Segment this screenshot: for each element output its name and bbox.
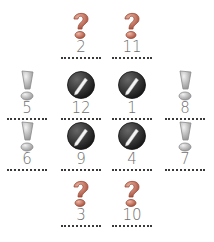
exclamation-icon [170, 121, 200, 153]
card-question-10[interactable]: 10 [109, 177, 155, 231]
card-number: 6 [4, 152, 50, 167]
answer-line[interactable] [112, 169, 152, 171]
card-number: 7 [162, 152, 208, 167]
card-exclamation-7[interactable]: 7 [162, 121, 208, 175]
answer-line[interactable] [165, 118, 205, 120]
pencil-icon [117, 121, 147, 153]
card-question-2[interactable]: 2 [58, 9, 104, 63]
card-number: 4 [109, 152, 155, 167]
card-exclamation-6[interactable]: 6 [4, 121, 50, 175]
card-pencil-12[interactable]: 12 [58, 70, 104, 124]
card-number: 8 [162, 101, 208, 116]
card-exclamation-5[interactable]: 5 [4, 70, 50, 124]
answer-line[interactable] [112, 225, 152, 227]
answer-line[interactable] [7, 169, 47, 171]
card-pencil-4[interactable]: 4 [109, 121, 155, 175]
card-number: 1 [109, 101, 155, 116]
pencil-icon [117, 70, 147, 102]
answer-line[interactable] [61, 225, 101, 227]
card-number: 5 [4, 101, 50, 116]
answer-line[interactable] [61, 169, 101, 171]
answer-line[interactable] [112, 118, 152, 120]
question-icon [117, 177, 147, 209]
card-pencil-1[interactable]: 1 [109, 70, 155, 124]
exclamation-icon [12, 121, 42, 153]
card-exclamation-8[interactable]: 8 [162, 70, 208, 124]
pencil-icon [66, 70, 96, 102]
card-number: 2 [58, 40, 104, 55]
card-number: 10 [109, 208, 155, 223]
card-question-3[interactable]: 3 [58, 177, 104, 231]
card-question-11[interactable]: 11 [109, 9, 155, 63]
answer-line[interactable] [7, 118, 47, 120]
answer-line[interactable] [112, 57, 152, 59]
card-number: 9 [58, 152, 104, 167]
question-icon [66, 177, 96, 209]
answer-line[interactable] [61, 118, 101, 120]
card-pencil-9[interactable]: 9 [58, 121, 104, 175]
pencil-icon [66, 121, 96, 153]
card-number: 12 [58, 101, 104, 116]
card-number: 3 [58, 208, 104, 223]
exclamation-icon [12, 70, 42, 102]
answer-line[interactable] [165, 169, 205, 171]
question-icon [66, 9, 96, 41]
answer-line[interactable] [61, 57, 101, 59]
question-icon [117, 9, 147, 41]
exclamation-icon [170, 70, 200, 102]
card-number: 11 [109, 40, 155, 55]
